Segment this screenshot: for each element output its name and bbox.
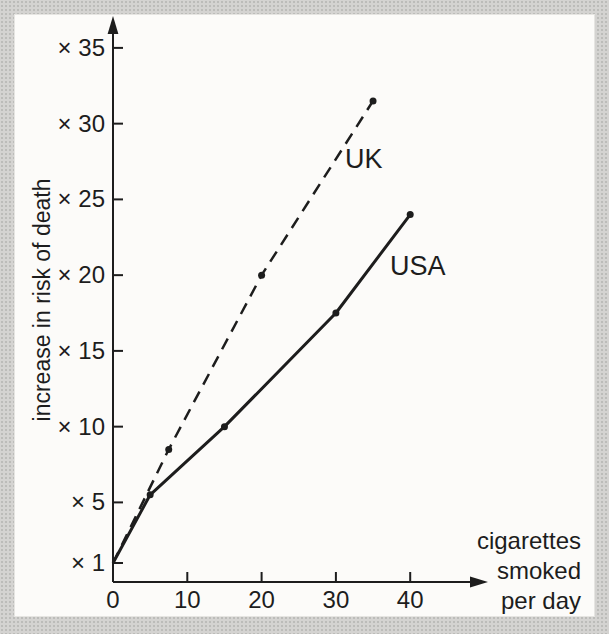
y-axis-tick-label: × 5 (17, 488, 105, 516)
y-axis-tick-label: × 10 (17, 413, 105, 441)
y-axis-tick-label: × 35 (17, 34, 105, 62)
x-axis-tick-label: 40 (380, 586, 440, 614)
data-point-usa (221, 423, 228, 430)
data-point-usa (147, 491, 154, 498)
x-axis-tick-label: 10 (157, 586, 217, 614)
x-axis-tick-label: 0 (83, 586, 143, 614)
data-point-usa (407, 211, 414, 218)
data-point-usa (332, 310, 339, 317)
y-axis-tick-label: × 20 (17, 261, 105, 289)
y-axis-tick-label: × 30 (17, 110, 105, 138)
series-label-usa: USA (390, 251, 446, 282)
data-point-uk (258, 272, 265, 279)
y-axis-tick-label: × 25 (17, 185, 105, 213)
x-axis-tick-label: 30 (306, 586, 366, 614)
series-label-uk: UK (345, 144, 383, 175)
data-point-uk (165, 446, 172, 453)
data-point-uk (370, 97, 377, 104)
x-axis-title-line-3: per day (420, 586, 581, 616)
smoking-risk-figure: increase in risk of death cigarettes smo… (0, 0, 609, 634)
x-axis-title-line-1: cigarettes (420, 526, 581, 556)
series-line-usa (113, 215, 410, 563)
y-axis-tick-label: × 1 (17, 549, 105, 577)
y-axis-tick-label: × 15 (17, 337, 105, 365)
x-axis-tick-label: 20 (232, 586, 292, 614)
y-axis-arrowhead (108, 16, 119, 34)
x-axis-title-line-2: smoked (420, 556, 581, 586)
x-axis-title: cigarettes smoked per day (420, 526, 581, 616)
